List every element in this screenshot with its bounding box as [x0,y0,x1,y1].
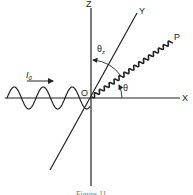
origin-label: O [81,88,88,98]
figure-caption: Figure 11 [76,190,107,195]
intensity-subscript: 0 [29,75,33,81]
theta-z-label: θz [97,44,105,55]
scattering-diagram: Z Y X O P I0 θ θz Figure 11 [0,0,193,195]
z-axis-label: Z [86,0,92,9]
incident-intensity-label: I0 [26,70,33,81]
theta-label: θ [123,83,128,93]
endpoint-p-label: P [174,32,180,42]
x-axis-label: X [182,93,188,103]
theta-arc [119,85,122,98]
y-axis-label: Y [139,6,145,16]
theta-z-subscript: z [102,49,105,55]
